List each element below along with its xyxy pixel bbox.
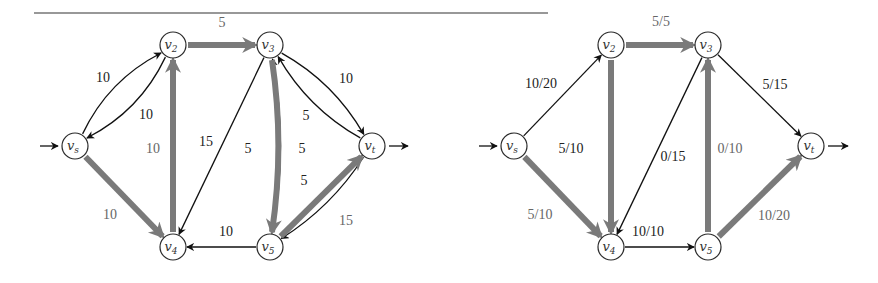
edge-label: 5: [299, 141, 306, 156]
node-v3: v3: [257, 32, 283, 58]
node-vs: vs: [501, 133, 527, 159]
edge-label: 0/15: [661, 149, 686, 164]
node-v5: v5: [695, 234, 721, 260]
edge-vs-to-v4: [85, 157, 162, 236]
node-v3: v3: [695, 32, 721, 58]
node-vs: vs: [62, 133, 88, 159]
edge-label: 15: [199, 134, 213, 149]
edge-label: 10/10: [632, 224, 664, 239]
residual-graph: 101051010155510551510vsv2v3v4v5vt: [40, 15, 408, 260]
edge-label: 15: [339, 213, 353, 228]
edge-label: 5/10: [528, 207, 553, 222]
edge-vt-to-v3: [278, 57, 360, 138]
edge-v3-to-vt: [282, 53, 364, 134]
edge-label: 5: [219, 15, 226, 30]
edge-label: 10: [146, 141, 160, 156]
node-v4: v4: [160, 234, 186, 260]
flow-network-diagram: 101051010155510551510vsv2v3v4v5vt10/205/…: [0, 0, 878, 283]
flow-graph: 10/205/55/105/100/150/105/1510/1010/20vs…: [479, 14, 848, 260]
edge-label: 5: [303, 108, 310, 123]
edge-vs-to-v4: [524, 157, 600, 236]
edge-v3-to-v5: [272, 60, 278, 232]
edge-label: 10: [219, 224, 233, 239]
edge-label: 10: [139, 107, 153, 122]
edge-label: 5/15: [763, 77, 788, 92]
node-v2: v2: [598, 32, 624, 58]
edge-vs-to-v2: [524, 55, 602, 136]
edge-label: 10/20: [758, 208, 790, 223]
edge-label: 10: [96, 70, 110, 85]
node-v2: v2: [160, 32, 186, 58]
edge-label: 5: [245, 141, 252, 156]
edge-v5-to-vt: [719, 157, 801, 237]
edge-label: 10: [339, 71, 353, 86]
node-vt: vt: [798, 133, 824, 159]
node-vt: vt: [359, 133, 385, 159]
edge-label: 10: [103, 207, 117, 222]
edge-label: 10/20: [525, 76, 557, 91]
node-v5: v5: [257, 234, 283, 260]
edge-v3-to-v4: [617, 58, 702, 235]
edge-label: 5/5: [652, 14, 670, 29]
edge-label: 5: [301, 173, 308, 188]
node-v4: v4: [598, 234, 624, 260]
edge-v3-to-vt: [718, 55, 801, 136]
edge-label: 0/10: [718, 141, 743, 156]
edge-label: 5/10: [559, 141, 584, 156]
